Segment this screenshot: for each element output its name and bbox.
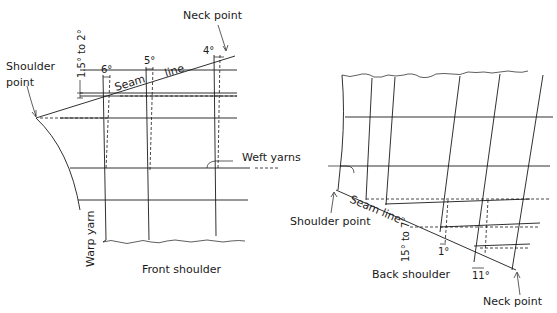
- armhole-curve: [36, 118, 80, 210]
- shoulder-point-arrow: [27, 86, 36, 117]
- warp-line: [386, 77, 395, 205]
- back-shoulder-caption: Back shoulder: [372, 268, 450, 281]
- front-drop-label: 1.5° to 2°: [76, 29, 87, 78]
- back-shoulder-point-label: Shoulder point: [290, 215, 371, 228]
- weft-pointer: [328, 166, 354, 173]
- weft-line: [385, 199, 530, 204]
- dashed-warp: [218, 55, 220, 170]
- fabric-edge: [103, 240, 245, 244]
- dashed-warp: [485, 200, 488, 255]
- front-shoulder-point-label-1: Shoulder: [6, 60, 55, 73]
- back-angle-1: 1°: [438, 246, 449, 257]
- front-angle-4: 4°: [203, 45, 214, 56]
- front-shoulder-caption: Front shoulder: [142, 263, 222, 276]
- front-shoulder-point-label-2: point: [6, 76, 35, 89]
- back-drop-label: 15° to 7°: [400, 217, 411, 262]
- front-angle-5: 5°: [144, 55, 155, 66]
- front-neck-point-label: Neck point: [183, 9, 243, 22]
- warp-line: [338, 75, 344, 190]
- weft-line: [440, 223, 540, 227]
- front-seam-label: Seam: [113, 72, 147, 94]
- weft-line: [474, 244, 530, 246]
- weft-pointer: [207, 161, 233, 168]
- back-shoulder-figure: [328, 71, 553, 295]
- warp-line: [366, 78, 372, 200]
- dashed-warp: [106, 75, 110, 170]
- back-angle-11: 11°: [472, 270, 490, 281]
- drop-arrow: [77, 80, 83, 98]
- warp-line: [440, 76, 460, 232]
- warp-line: [214, 55, 216, 236]
- back-neck-point-label: Neck point: [483, 295, 543, 308]
- warp-line: [474, 74, 500, 262]
- weft-yarns-label: Weft yarns: [242, 151, 301, 164]
- front-angle-6: 6°: [101, 64, 112, 75]
- neck-point-arrow: [514, 272, 520, 295]
- shoulder-grain-diagram: Neck point Shoulder point Seam line 1.5°…: [0, 0, 557, 313]
- front-line-label: line: [163, 62, 186, 80]
- warp-line: [103, 75, 106, 242]
- shoulder-point-arrow: [331, 192, 337, 213]
- neck-point-arrow: [218, 25, 228, 51]
- warp-yarn-label: Warp yarn: [84, 211, 97, 267]
- warp-line: [512, 75, 543, 270]
